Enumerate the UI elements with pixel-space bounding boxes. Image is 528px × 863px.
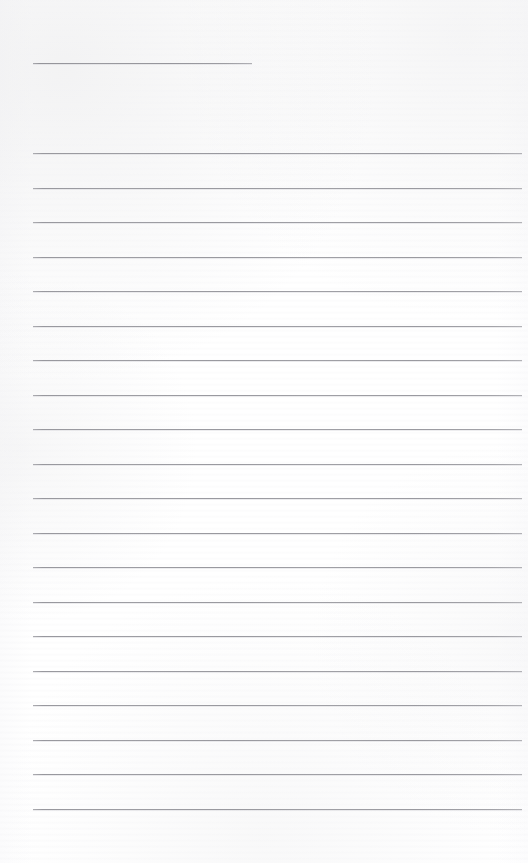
scanned-page — [0, 0, 528, 863]
page-writing-area[interactable] — [33, 40, 522, 830]
